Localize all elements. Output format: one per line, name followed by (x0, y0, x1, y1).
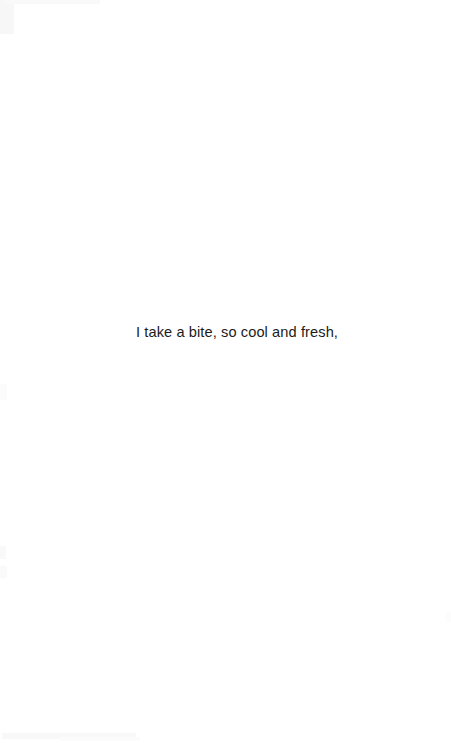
scan-artifact-top-left (0, 0, 14, 34)
scan-artifact-left-middle (0, 546, 6, 559)
scanned-page: I take a bite, so cool and fresh, (0, 0, 451, 743)
scan-artifact-left-upper (0, 384, 7, 400)
scan-artifact-top-edge (4, 0, 100, 4)
body-line: I take a bite, so cool and fresh, (113, 322, 338, 342)
scan-artifact-bottom-edge (60, 737, 140, 741)
scan-artifact-right-edge (446, 612, 451, 622)
page-body-text: I take a bite, so cool and fresh, (0, 322, 451, 342)
scan-artifact-left-lower (0, 566, 7, 578)
scan-artifact-bottom-left (2, 733, 136, 739)
